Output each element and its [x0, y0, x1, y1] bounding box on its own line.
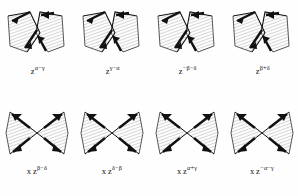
cell-label: zα−γ [29, 65, 45, 76]
diagram-cell: xzδ−β [75, 102, 149, 194]
label-prefix: x [27, 166, 32, 176]
diagram-cell: xz−α−γ [225, 102, 299, 194]
wedge-pair-icon [75, 2, 149, 64]
butterfly-crossed-icon [150, 102, 224, 164]
butterfly-crossed-icon [0, 102, 74, 164]
label-exponent: −α−γ [260, 164, 274, 171]
cell-label: zβ+δ [254, 65, 270, 76]
butterfly-crossed-icon [225, 102, 299, 164]
label-prefix: x [250, 166, 255, 176]
butterfly-crossed-icon [75, 102, 149, 164]
diagram-cell: xzβ−δ [0, 102, 74, 194]
cell-label: xzα+γ [177, 165, 197, 176]
diagram-cell: xzα+γ [150, 102, 224, 194]
label-exponent: δ−β [112, 164, 122, 171]
diagram-cell: zγ−α [75, 2, 149, 94]
cell-label: xz−α−γ [250, 165, 274, 176]
diagram-cell: zα−γ [0, 2, 74, 94]
cell-label: xzβ−δ [27, 165, 47, 176]
label-exponent: α+γ [187, 164, 197, 171]
diagram-cell: z−β−δ [150, 2, 224, 94]
label-prefix: x [177, 166, 182, 176]
diagram-cell: zβ+δ [225, 2, 299, 94]
wedge-pair-icon [0, 2, 74, 64]
label-exponent: β−δ [37, 164, 47, 171]
figure-plate: zα−γ [0, 0, 299, 196]
diagram-row-top: zα−γ [0, 2, 299, 94]
label-exponent: α−γ [35, 64, 45, 71]
wedge-pair-icon [225, 2, 299, 64]
label-exponent: β+δ [260, 64, 270, 71]
label-prefix: x [102, 166, 107, 176]
label-exponent: γ−α [110, 64, 120, 71]
cell-label: xzδ−β [102, 165, 122, 176]
cell-label: zγ−α [104, 65, 120, 76]
diagram-row-bottom: xzβ−δ [0, 102, 299, 194]
wedge-pair-icon [150, 2, 224, 64]
cell-label: z−β−δ [177, 65, 196, 76]
label-exponent: −β−δ [183, 64, 197, 71]
